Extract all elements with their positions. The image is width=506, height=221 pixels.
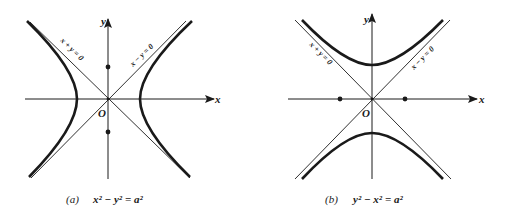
caption-equation: x² − y² = a² <box>92 193 143 205</box>
caption-tag: (a) <box>66 193 79 206</box>
panel-b: y x O x + y = 0 x − y = 0 (b) y² − x² = … <box>288 13 485 206</box>
caption-equation: y² − x² = a² <box>351 193 403 205</box>
caption-tag: (b) <box>325 193 338 206</box>
focus-dot <box>106 130 111 135</box>
x-axis-label: x <box>478 93 485 105</box>
panel-a: y x O x + y = 0 x − y = 0 (a) x² − y² = … <box>25 15 221 206</box>
asymptote-x-plus-y-label: x + y = 0 <box>307 39 334 66</box>
asymptote-x-minus-y-label: x − y = 0 <box>127 42 155 69</box>
y-axis-label: y <box>362 13 369 25</box>
y-axis-label: y <box>99 15 106 27</box>
focus-dot <box>403 97 408 102</box>
origin-label: O <box>362 107 370 119</box>
asymptote-x-plus-y-label: x + y = 0 <box>58 35 86 62</box>
origin-dot <box>371 98 374 101</box>
origin-label: O <box>98 107 106 119</box>
hyperbola-figure: y x O x + y = 0 x − y = 0 (a) x² − y² = … <box>0 0 506 221</box>
focus-dot <box>106 65 111 70</box>
x-axis-label: x <box>214 93 221 105</box>
origin-dot <box>107 98 110 101</box>
focus-dot <box>338 97 343 102</box>
